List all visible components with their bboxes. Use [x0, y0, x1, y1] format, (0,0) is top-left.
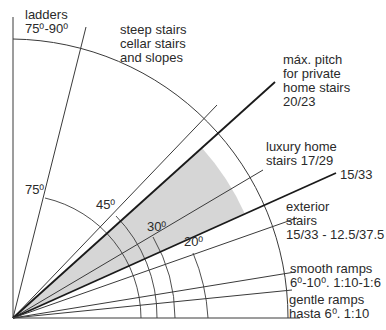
gentle-line1: gentle ramps: [289, 293, 369, 307]
luxury-line1: luxury home: [266, 140, 337, 154]
steep-line3: and slopes: [120, 51, 186, 65]
smooth-line2: 6⁰-10⁰. 1:10-1:6: [290, 276, 381, 290]
label-luxury: luxury home stairs 17/29: [266, 140, 337, 168]
angle-30: 30⁰: [147, 219, 166, 234]
label-ladders: ladders 75⁰-90⁰: [25, 8, 68, 36]
luxury-line2: stairs 17/29: [266, 154, 337, 168]
label-exterior: exterior stairs 15/33 - 12.5/37.5: [286, 200, 384, 242]
max-line4: 20/23: [283, 95, 350, 109]
angle-20: 20⁰: [184, 234, 203, 249]
steep-line1: steep stairs: [120, 23, 186, 37]
label-smooth-ramps: smooth ramps 6⁰-10⁰. 1:10-1:6: [290, 262, 381, 290]
gentle-line2: hasta 6⁰. 1:10: [289, 307, 369, 321]
luxury-line: [13, 170, 263, 318]
max-line1: máx. pitch: [283, 53, 350, 67]
steep-line2: cellar stairs: [120, 37, 186, 51]
angle-75: 75⁰: [25, 182, 44, 197]
shaded-stair-zone: [13, 148, 245, 318]
label-steep: steep stairs cellar stairs and slopes: [120, 23, 186, 65]
exterior-line2: stairs: [286, 214, 384, 228]
smooth-line1: smooth ramps: [290, 262, 381, 276]
ladders-range: 75⁰-90⁰: [25, 22, 68, 36]
arc-20: [193, 253, 208, 318]
outer-arc: [13, 39, 288, 318]
max-line2: for private: [283, 67, 350, 81]
exterior-line1: exterior: [286, 200, 384, 214]
ladders-text: ladders: [25, 8, 68, 22]
exterior-line3: 15/33 - 12.5/37.5: [286, 228, 384, 242]
label-max-pitch: máx. pitch for private home stairs 20/23: [283, 53, 350, 109]
label-15-33: 15/33: [340, 168, 373, 182]
max-line3: home stairs: [283, 81, 350, 95]
label-gentle-ramps: gentle ramps hasta 6⁰. 1:10: [289, 293, 369, 321]
angle-45: 45⁰: [96, 197, 115, 212]
